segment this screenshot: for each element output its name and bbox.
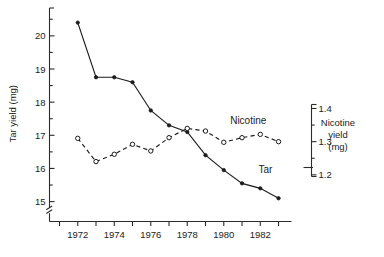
data-point-nicotine [94,159,98,163]
data-point-nicotine [203,129,207,133]
left-axis-tick-label: 18 [35,97,46,108]
left-axis-tick-label: 19 [35,64,46,75]
data-point-nicotine [185,126,189,130]
tar-nicotine-yield-line-chart: 1516171819201972197419761978198019821.21… [0,0,384,257]
data-point-tar [222,168,225,171]
left-axis-tick-label: 16 [35,163,46,174]
x-axis: 197219741976197819801982 [50,222,292,240]
series-tar-line [78,23,279,199]
right-axis-title-line3: (mg) [328,141,348,152]
data-point-tar [94,76,97,79]
data-point-tar [131,81,134,84]
right-axis-tick-label: 1.4 [319,103,332,114]
chart-figure: 1516171819201972197419761978198019821.21… [0,0,384,257]
data-point-nicotine [222,140,226,144]
right-axis-title-line1: Nicotine [321,117,355,128]
left-axis-tick-label: 15 [35,196,46,207]
x-axis-tick-label: 1982 [250,229,271,240]
left-y-axis: 151617181920 [35,8,55,222]
data-point-tar [76,21,79,24]
series-nicotine-line [78,128,279,161]
data-point-tar [167,124,170,127]
x-axis-tick-label: 1980 [213,229,234,240]
right-axis-title-line2: yield [328,129,348,140]
data-point-tar [259,187,262,190]
data-point-tar [204,153,207,156]
data-point-nicotine [276,139,280,143]
x-axis-tick-label: 1972 [67,229,88,240]
data-point-nicotine [149,149,153,153]
left-axis-tick-label: 17 [35,130,46,141]
data-point-nicotine [130,142,134,146]
left-axis-tick-label: 20 [35,30,46,41]
nicotine-series-label: Nicotine [230,115,267,126]
x-axis-tick-label: 1978 [177,229,198,240]
data-point-tar [277,197,280,200]
data-point-nicotine [258,132,262,136]
data-point-tar [149,109,152,112]
right-axis-tick-label: 1.2 [319,169,332,180]
data-point-nicotine [76,136,80,140]
tar-series-label: Tar [258,164,273,175]
data-point-nicotine [167,135,171,139]
x-axis-tick-label: 1976 [140,229,161,240]
data-point-nicotine [112,152,116,156]
data-point-tar [240,182,243,185]
x-axis-tick-label: 1974 [104,229,125,240]
data-point-tar [113,76,116,79]
left-axis-title: Tar yield (mg) [7,85,18,143]
series-nicotine [76,126,281,164]
series-tar [76,21,280,200]
data-point-nicotine [240,135,244,139]
